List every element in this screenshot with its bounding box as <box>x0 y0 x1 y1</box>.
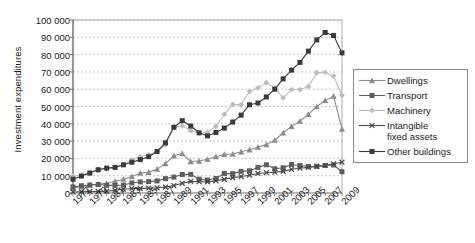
chart-legend: DwellingsTransportMachineryIntangiblefix… <box>353 69 468 163</box>
legend-item[interactable]: Intangiblefixed assets <box>357 120 464 142</box>
legend-marker-icon <box>357 105 387 116</box>
legend-label: Transport <box>387 90 427 101</box>
legend-marker-icon <box>357 90 387 101</box>
legend-label: Intangiblefixed assets <box>387 120 437 142</box>
data-point-marker <box>369 108 375 114</box>
legend-item[interactable]: Machinery <box>357 105 464 116</box>
legend-item[interactable]: Other buildings <box>357 146 464 157</box>
legend-marker-icon <box>357 75 387 86</box>
legend-label: Dwellings <box>387 75 428 86</box>
x-axis-tick-label: 2009 <box>339 184 362 207</box>
legend-marker-icon <box>357 146 387 157</box>
legend-label: Machinery <box>387 105 431 116</box>
chart-figure: Investment expenditures 010 00020 00030 … <box>0 0 475 243</box>
legend-item[interactable]: Transport <box>357 90 464 101</box>
data-point-marker <box>370 149 375 154</box>
legend-item[interactable]: Dwellings <box>357 75 464 86</box>
data-point-marker <box>370 93 375 98</box>
legend-marker-icon <box>357 120 387 131</box>
legend-label: Other buildings <box>387 146 451 157</box>
